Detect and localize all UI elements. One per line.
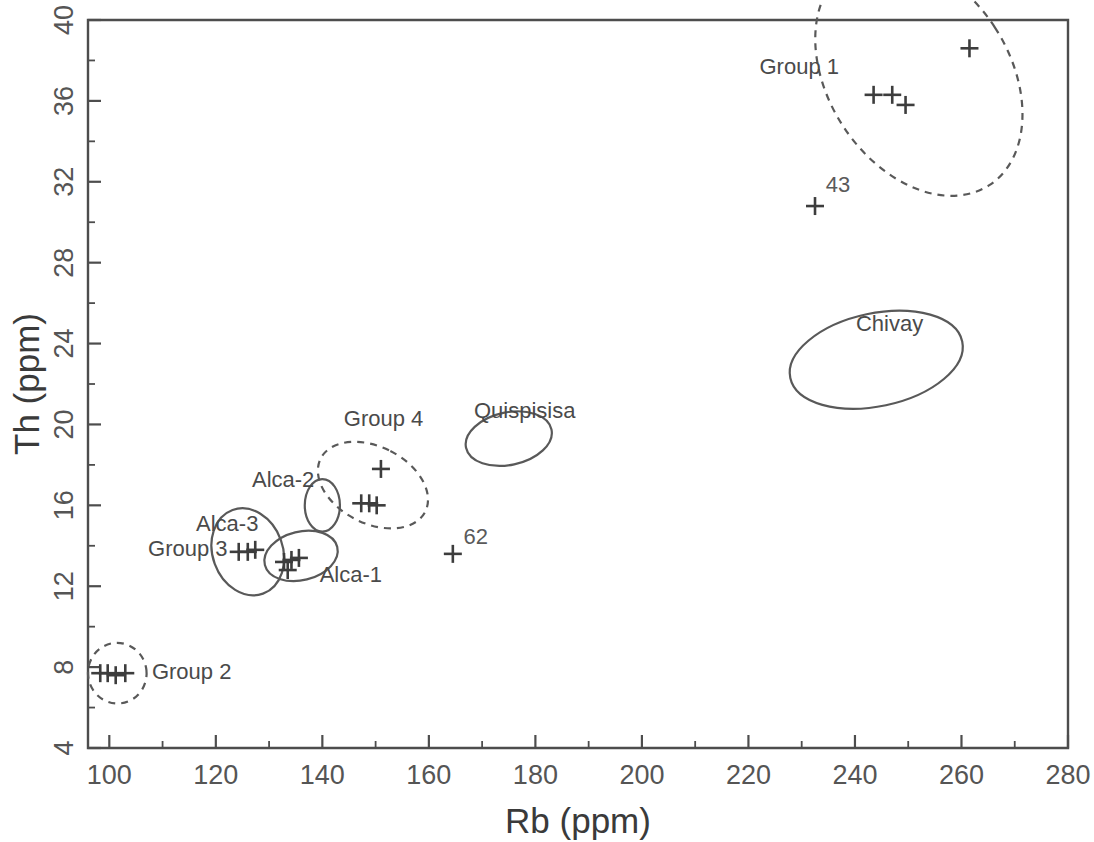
plot-canvas: 1001201401601802002202402602804812162024… [0,0,1094,842]
data-point-marker [883,86,901,104]
data-point-marker [865,86,883,104]
annotation-alca-1: Alca-1 [320,562,382,587]
x-axis-title: Rb (ppm) [505,801,651,840]
y-tick-label: 4 [49,740,79,755]
x-tick-label: 180 [513,760,558,790]
data-point-marker [806,197,824,215]
confidence-ellipses [85,0,1065,706]
y-tick-label: 28 [49,248,79,278]
y-tick-label: 20 [49,409,79,439]
y-tick-label: 8 [49,660,79,675]
x-tick-label: 280 [1045,760,1090,790]
x-tick-label: 120 [193,760,238,790]
y-tick-label: 40 [49,5,79,35]
data-markers [91,39,978,684]
annotation-alca-3: Alca-3 [196,511,258,536]
group-annotations: Group 1ChivayQuispisisaGroup 4Alca-2Alca… [148,54,923,684]
y-tick-label: 12 [49,571,79,601]
data-point-marker [372,460,390,478]
data-point-marker [116,664,134,682]
data-point-marker [444,545,462,563]
data-point-marker [897,96,915,114]
axis-ticks-major [88,20,1068,748]
ellipse-group-1 [772,0,1065,234]
x-tick-label: 160 [406,760,451,790]
annotation-quispisisa: Quispisisa [474,398,576,423]
y-tick-label: 24 [49,329,79,359]
annotation-group-1: Group 1 [759,54,839,79]
plot-frame [88,20,1068,748]
annotation-alca-2: Alca-2 [252,467,314,492]
y-tick-label: 32 [49,167,79,197]
annotation-group-3: Group 3 [148,536,228,561]
x-tick-label: 140 [300,760,345,790]
x-tick-label: 200 [619,760,664,790]
annotation-43: 43 [826,172,850,197]
x-tick-label: 240 [832,760,877,790]
annotation-group-2: Group 2 [152,659,232,684]
y-tick-label: 16 [49,490,79,520]
y-tick-label: 36 [49,86,79,116]
y-axis-title: Th (ppm) [7,313,46,455]
annotation-62: 62 [463,524,487,549]
x-tick-label: 220 [726,760,771,790]
data-point-marker [107,666,125,684]
ellipse-group-4 [303,424,442,546]
annotation-chivay: Chivay [856,311,923,336]
x-tick-label: 260 [939,760,984,790]
data-point-marker [960,39,978,57]
annotation-group-4: Group 4 [344,406,424,431]
x-tick-label: 100 [87,760,132,790]
scatter-plot-figure: 1001201401601802002202402602804812162024… [0,0,1094,842]
